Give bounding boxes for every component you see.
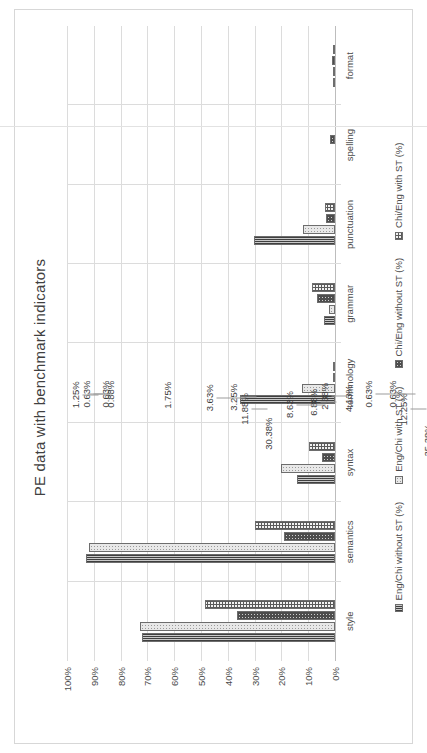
- category-group-grammar: grammar: [67, 264, 335, 343]
- y-axis-tick-label: 80%: [115, 667, 126, 686]
- label-leader-line: [217, 397, 246, 398]
- label-leader-line: [411, 409, 427, 410]
- category-groups: stylesemanticssyntaxterminologygrammarpu…: [67, 26, 335, 661]
- bar-semantics-s1: [89, 543, 335, 552]
- label-leader-line: [252, 408, 268, 409]
- legend-swatch-icon: [395, 232, 403, 240]
- y-axis-tick-label: 40%: [222, 667, 233, 686]
- bar-semantics-s2: [284, 532, 335, 541]
- bar-grammar-s3: [312, 283, 335, 292]
- y-axis-tick-label: 60%: [169, 667, 180, 686]
- y-axis-tick-label: 20%: [276, 667, 287, 686]
- y-axis-tick-label: 30%: [249, 667, 260, 686]
- chart-legend: Eng/Chi without ST (%)Eng/Chi with ST (%…: [393, 10, 404, 745]
- legend-label: Chi/Eng without ST (%): [393, 258, 404, 357]
- bar-format-s2: [332, 56, 335, 65]
- bar-syntax-s0: [297, 475, 335, 484]
- legend-label: Eng/Chi without ST (%): [393, 502, 404, 601]
- legend-label: Eng/Chi with ST (%): [393, 387, 404, 472]
- category-group-punctuation: punctuation: [67, 185, 335, 264]
- legend-item-3: Chi/Eng with ST (%): [393, 143, 404, 240]
- bar-style-s3: [205, 600, 335, 609]
- x-axis-category-label: format: [344, 26, 355, 105]
- bar-style-s0: [142, 633, 335, 642]
- figure-frame: PE data with benchmark indicators 100%90…: [14, 9, 413, 744]
- bar-format-s1: [333, 67, 335, 76]
- y-axis-tick-label: 100%: [62, 667, 73, 691]
- x-axis-category-label: punctuation: [344, 185, 355, 264]
- chart-title: PE data with benchmark indicators: [31, 10, 48, 745]
- plot-inner: 100%90%80%70%60%50%40%30%20%10%0% styles…: [67, 26, 335, 661]
- category-group-semantics: semantics: [67, 502, 335, 581]
- bar-semantics-s0: [86, 554, 335, 563]
- legend-item-0: Eng/Chi without ST (%): [393, 502, 404, 613]
- data-label: 1.75%: [162, 382, 173, 409]
- bar-style-s1: [140, 622, 335, 631]
- x-axis-category-label: syntax: [344, 423, 355, 502]
- y-axis-tick-label: 0%: [330, 667, 341, 681]
- bar-format-s3: [333, 45, 335, 54]
- data-label: 30.38%: [263, 418, 274, 450]
- x-axis-category-label: semantics: [344, 502, 355, 581]
- plot-area: 100%90%80%70%60%50%40%30%20%10%0% styles…: [67, 26, 335, 661]
- bar-grammar-s2: [317, 294, 335, 303]
- data-label: 1.25%: [70, 381, 81, 408]
- y-axis-tick-label: 50%: [196, 667, 207, 686]
- legend-swatch-icon: [395, 476, 403, 484]
- bar-grammar-s0: [324, 316, 335, 325]
- category-group-style: style: [67, 582, 335, 661]
- rotated-chart-stage: PE data with benchmark indicators 100%90…: [15, 10, 414, 745]
- y-axis-tick-label: 10%: [303, 667, 314, 686]
- bar-terminology-s3: [333, 362, 335, 371]
- bar-punctuation-s2: [326, 214, 335, 223]
- bar-format-s0: [333, 78, 335, 87]
- legend-swatch-icon: [395, 604, 403, 612]
- x-axis-category-label: spelling: [344, 105, 355, 184]
- data-label: 8.63%: [284, 391, 295, 418]
- data-label: 3.63%: [204, 384, 215, 411]
- legend-swatch-icon: [395, 361, 403, 369]
- legend-item-2: Chi/Eng without ST (%): [393, 258, 404, 369]
- bar-style-s2: [237, 611, 335, 620]
- bar-punctuation-s0: [254, 236, 335, 245]
- bar-grammar-s1: [329, 305, 335, 314]
- legend-item-1: Eng/Chi with ST (%): [393, 387, 404, 484]
- label-leader-line: [296, 404, 325, 405]
- data-label: 0.63%: [363, 381, 374, 408]
- category-group-format: format: [67, 26, 335, 105]
- bar-spelling-s2: [330, 135, 335, 144]
- data-label: 2.38%: [319, 383, 330, 410]
- bar-semantics-s3: [255, 521, 335, 530]
- data-label: 4.13%: [343, 385, 354, 412]
- bar-syntax-s1: [281, 464, 335, 473]
- y-axis-tick-label: 90%: [88, 667, 99, 686]
- bar-punctuation-s3: [325, 203, 335, 212]
- bar-syntax-s2: [322, 453, 335, 462]
- legend-label: Chi/Eng with ST (%): [393, 143, 404, 228]
- data-label: 6.88%: [308, 389, 319, 416]
- category-group-spelling: spelling: [67, 105, 335, 184]
- gridline: [335, 26, 336, 661]
- category-group-syntax: syntax: [67, 423, 335, 502]
- bar-punctuation-s1: [303, 225, 335, 234]
- data-label: 35.38%: [422, 424, 427, 456]
- x-axis-category-label: style: [344, 582, 355, 661]
- bar-terminology-s2: [333, 373, 335, 382]
- label-leader-line: [87, 394, 112, 395]
- x-axis-category-label: grammar: [344, 264, 355, 343]
- y-axis-tick-label: 70%: [142, 667, 153, 686]
- bar-syntax-s3: [309, 442, 335, 451]
